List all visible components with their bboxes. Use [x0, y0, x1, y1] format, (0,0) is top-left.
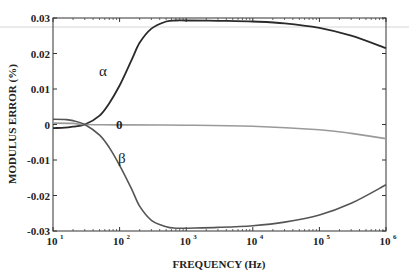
series-line-theta [53, 123, 386, 139]
y-tick-label: -0.03 [27, 225, 50, 237]
y-tick-label: -0.02 [27, 190, 50, 202]
y-tick-label: 0.01 [31, 83, 50, 95]
y-axis-title: MODULUS ERROR (%) [6, 64, 19, 184]
label-alpha: α [99, 63, 107, 79]
x-axis-title: FREQUENCY (Hz) [173, 258, 266, 271]
y-tick-label: 0.02 [31, 48, 51, 60]
x-tick-exponent: 3 [193, 233, 197, 241]
y-tick-label: 0 [45, 119, 51, 131]
x-tick-label: 10 [380, 235, 392, 247]
x-tick-exponent: 4 [260, 233, 264, 241]
x-tick-exponent: 5 [326, 233, 330, 241]
x-tick-label: 10 [113, 235, 125, 247]
label-beta: β [118, 150, 126, 166]
modulus-error-chart: 101102103104105106 0.030.020.010-0.01-0.… [0, 0, 409, 275]
plot-area: 101102103104105106 0.030.020.010-0.01-0.… [27, 12, 397, 247]
x-tick-exponent: 2 [127, 233, 131, 241]
label-theta: 0 [116, 117, 123, 132]
series-lines [53, 20, 386, 228]
x-tick-label: 10 [313, 235, 325, 247]
y-tick-label: -0.01 [27, 154, 50, 166]
x-tick-exponent: 1 [60, 233, 64, 241]
x-tick-exponent: 6 [393, 233, 397, 241]
x-tick-label: 10 [246, 235, 258, 247]
series-line-beta [53, 119, 386, 228]
y-tick-label: 0.03 [31, 12, 51, 24]
x-tick-label: 10 [180, 235, 192, 247]
